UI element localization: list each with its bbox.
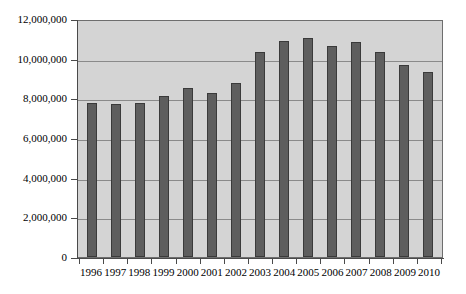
bar-slot (176, 21, 200, 257)
x-axis-tick-label: 2007 (345, 266, 369, 286)
bar-2003[interactable] (255, 52, 265, 257)
x-axis-tick-label: 2003 (248, 266, 272, 286)
bar-1997[interactable] (111, 104, 121, 257)
bar-slot (80, 21, 104, 257)
bar-2008[interactable] (375, 52, 385, 257)
x-axis-tick-label: 1996 (79, 266, 103, 286)
x-tick-mark (296, 259, 297, 264)
x-axis-tick-label: 2002 (224, 266, 248, 286)
x-tick-mark (79, 259, 80, 264)
x-tick-mark (248, 259, 249, 264)
bar-2009[interactable] (399, 65, 409, 257)
bar-2001[interactable] (207, 93, 217, 257)
x-tick-mark (224, 259, 225, 264)
bar-slot (416, 21, 440, 257)
x-tick-mark (344, 259, 345, 264)
bar-slot (152, 21, 176, 257)
x-tick-mark (417, 259, 418, 264)
y-tick-mark (71, 99, 77, 100)
x-axis-labels: 1996199719981999200020012002200320042005… (77, 266, 443, 286)
bar-slot (272, 21, 296, 257)
y-axis-tick-label: 10,000,000 (18, 54, 68, 65)
x-tick-mark (103, 259, 104, 264)
x-tick-mark (320, 259, 321, 264)
bar-2005[interactable] (303, 38, 313, 257)
y-tick-mark (71, 179, 77, 180)
y-tick-mark (71, 60, 77, 61)
bar-2006[interactable] (327, 46, 337, 257)
bar-slot (296, 21, 320, 257)
x-axis-tick-label: 1999 (151, 266, 175, 286)
bar-slot (320, 21, 344, 257)
bar-slot (392, 21, 416, 257)
bar-slot (248, 21, 272, 257)
bar-slot (368, 21, 392, 257)
bar-slot (128, 21, 152, 257)
bar-1996[interactable] (87, 103, 97, 257)
x-tick-mark (272, 259, 273, 264)
bar-chart: 02,000,0004,000,0006,000,0008,000,00010,… (0, 0, 466, 294)
y-axis-tick-label: 8,000,000 (23, 93, 67, 104)
x-axis-tick-label: 2004 (272, 266, 296, 286)
x-axis-tick-label: 1998 (127, 266, 151, 286)
x-tick-mark (441, 259, 442, 264)
x-axis-tick-label: 2006 (320, 266, 344, 286)
x-tick-mark (127, 259, 128, 264)
bar-slot (104, 21, 128, 257)
bar-2000[interactable] (183, 88, 193, 257)
y-tick-mark (71, 218, 77, 219)
x-tick-mark (393, 259, 394, 264)
y-axis-line (77, 20, 78, 259)
bar-slot (224, 21, 248, 257)
bar-2002[interactable] (231, 83, 241, 257)
x-axis-tick-label: 2009 (393, 266, 417, 286)
x-axis-tick-label: 2010 (417, 266, 441, 286)
x-tick-mark (176, 259, 177, 264)
x-tick-mark (200, 259, 201, 264)
y-axis-tick-label: 2,000,000 (23, 212, 67, 223)
y-tick-mark (71, 139, 77, 140)
bar-1998[interactable] (135, 103, 145, 257)
x-tick-mark (151, 259, 152, 264)
x-tick-mark (369, 259, 370, 264)
bar-slot (200, 21, 224, 257)
y-axis-tick-label: 12,000,000 (18, 14, 68, 25)
y-axis-tick-label: 0 (62, 252, 68, 263)
bar-2004[interactable] (279, 41, 289, 257)
bar-1999[interactable] (159, 96, 169, 257)
x-axis-tick-label: 2000 (176, 266, 200, 286)
x-axis-tick-label: 1997 (103, 266, 127, 286)
bar-slot (344, 21, 368, 257)
bar-2007[interactable] (351, 42, 361, 257)
x-axis-tick-label: 2008 (369, 266, 393, 286)
bar-2010[interactable] (423, 72, 433, 257)
x-axis-tick-label: 2005 (296, 266, 320, 286)
x-axis-tick-label: 2001 (200, 266, 224, 286)
x-axis-line (77, 258, 444, 259)
plot-area (77, 20, 443, 258)
y-axis-tick-label: 4,000,000 (23, 173, 67, 184)
bars-container (78, 21, 442, 257)
y-tick-mark (71, 20, 77, 21)
y-axis-tick-label: 6,000,000 (23, 133, 67, 144)
